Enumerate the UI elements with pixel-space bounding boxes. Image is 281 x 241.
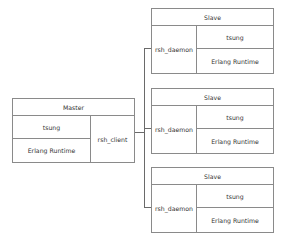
slave-node-2: Slave rsh_daemon tsung Erlang Runtime xyxy=(151,88,274,154)
master-layer-erlang-runtime: Erlang Runtime xyxy=(13,139,91,162)
master-title: Master xyxy=(13,99,134,116)
slave-rsh-daemon: rsh_daemon xyxy=(152,26,197,73)
slave-layer-tsung: tsung xyxy=(197,185,273,208)
slave-layer-erlang-runtime: Erlang Runtime xyxy=(197,208,273,232)
connector-slave-2 xyxy=(144,128,151,129)
slave-title: Slave xyxy=(152,9,273,26)
master-layer-tsung: tsung xyxy=(13,116,91,139)
connector-slave-3 xyxy=(144,207,151,208)
slave-node-1: Slave rsh_daemon tsung Erlang Runtime xyxy=(151,8,274,74)
slave-layer-tsung: tsung xyxy=(197,26,273,49)
slave-layer-erlang-runtime: Erlang Runtime xyxy=(197,49,273,73)
slave-node-3: Slave rsh_daemon tsung Erlang Runtime xyxy=(151,167,274,233)
slave-title: Slave xyxy=(152,168,273,185)
slave-title: Slave xyxy=(152,89,273,106)
slave-layer-erlang-runtime: Erlang Runtime xyxy=(197,129,273,153)
master-node: Master tsung Erlang Runtime rsh_client xyxy=(12,98,135,163)
master-rsh-client: rsh_client xyxy=(91,116,134,162)
slave-rsh-daemon: rsh_daemon xyxy=(152,185,197,232)
connector-slave-1 xyxy=(144,48,151,49)
slave-layer-tsung: tsung xyxy=(197,106,273,129)
slave-rsh-daemon: rsh_daemon xyxy=(152,106,197,153)
connector-master-out xyxy=(135,132,144,133)
